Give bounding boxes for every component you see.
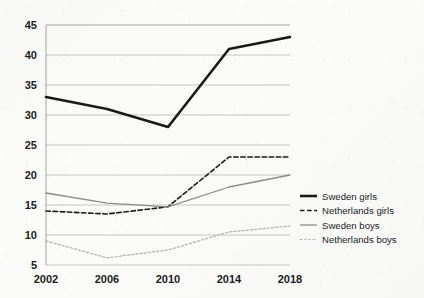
gridlines xyxy=(46,25,290,265)
y-tick-label: 45 xyxy=(25,19,37,31)
x-tick-label: 2014 xyxy=(217,273,242,285)
y-tick-label: 15 xyxy=(25,199,37,211)
x-tick-label: 2010 xyxy=(156,273,180,285)
x-tick-label: 2006 xyxy=(95,273,119,285)
y-tick-label: 5 xyxy=(31,259,37,271)
y-tick-label: 10 xyxy=(25,229,37,241)
y-axis-tick-labels: 51015202530354045 xyxy=(25,19,37,271)
series-line-sweden-girls xyxy=(46,37,290,127)
x-tick-label: 2002 xyxy=(34,273,58,285)
series-line-sweden-boys xyxy=(46,175,290,207)
legend-label-netherlands-boys: Netherlands boys xyxy=(322,234,397,245)
legend-label-sweden-boys: Sweden boys xyxy=(322,220,380,231)
x-axis-tick-labels: 20022006201020142018 xyxy=(34,273,302,285)
y-tick-label: 40 xyxy=(25,49,37,61)
y-tick-label: 25 xyxy=(25,139,37,151)
line-chart: 51015202530354045 20022006201020142018 S… xyxy=(0,0,424,298)
legend-label-sweden-girls: Sweden girls xyxy=(322,191,377,202)
series-line-netherlands-boys xyxy=(46,226,290,258)
chart-canvas: 51015202530354045 20022006201020142018 S… xyxy=(0,0,424,298)
legend-label-netherlands-girls: Netherlands girls xyxy=(322,205,394,216)
y-tick-label: 30 xyxy=(25,109,37,121)
series-line-netherlands-girls xyxy=(46,157,290,214)
y-tick-label: 20 xyxy=(25,169,37,181)
chart-legend: Sweden girlsNetherlands girlsSweden boys… xyxy=(300,191,397,246)
y-tick-label: 35 xyxy=(25,79,37,91)
data-series xyxy=(46,37,290,258)
x-tick-label: 2018 xyxy=(278,273,302,285)
